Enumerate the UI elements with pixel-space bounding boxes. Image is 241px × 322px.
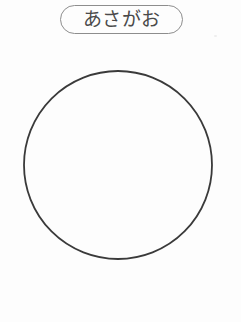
title-label-pill[interactable]: あさがお: [60, 5, 183, 34]
title-label-text: あさがお: [83, 10, 161, 29]
circle-outline[interactable]: [24, 71, 212, 259]
worksheet-page: あさがお: [0, 0, 241, 322]
drawing-canvas: [0, 0, 241, 322]
scan-artifact-speck: [214, 35, 217, 37]
circle-outline-svg: [0, 0, 241, 322]
